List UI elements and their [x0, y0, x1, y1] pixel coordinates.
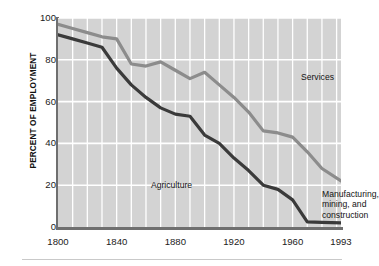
- x-tick-1800: 1800: [47, 236, 68, 247]
- x-axis-line: [56, 227, 343, 230]
- y-tick-80: 80: [30, 55, 56, 65]
- y-tick-60: 60: [30, 97, 56, 107]
- x-tick-1920: 1920: [223, 236, 244, 247]
- y-tick-40: 40: [30, 138, 56, 148]
- services-label: Services: [301, 72, 334, 82]
- plot-area: Services Agriculture Manufacturing, mini…: [58, 18, 341, 227]
- x-tick-1880: 1880: [165, 236, 186, 247]
- plot-svg: [58, 18, 341, 227]
- agriculture-label: Agriculture: [151, 180, 192, 190]
- y-tick-0: 0: [30, 222, 56, 232]
- manufacturing-label: Manufacturing, mining, and construction: [322, 189, 379, 220]
- bottom-rule: [22, 259, 342, 260]
- series-line-manufacturing: [58, 35, 341, 223]
- y-axis-tick-labels: 100806040200: [28, 0, 56, 266]
- x-tick-1960: 1960: [282, 236, 303, 247]
- y-tick-20: 20: [30, 180, 56, 190]
- x-axis-tick-labels: 180018401880192019601993: [0, 236, 359, 254]
- y-tick-100: 100: [30, 13, 56, 23]
- x-tick-1993: 1993: [330, 236, 351, 247]
- x-tick-1840: 1840: [106, 236, 127, 247]
